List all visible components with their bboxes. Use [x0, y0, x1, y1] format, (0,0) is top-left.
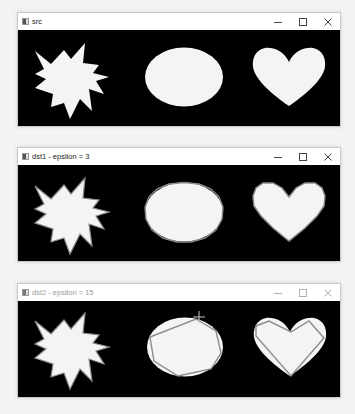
minimize-icon	[274, 289, 282, 297]
close-icon	[324, 18, 332, 26]
maximize-button[interactable]	[290, 13, 315, 30]
image-canvas[interactable]	[18, 30, 340, 126]
window-controls	[265, 284, 340, 301]
window-title: dst1 - epsilon = 3	[32, 152, 89, 161]
titlebar[interactable]: dst1 - epsilon = 3	[18, 148, 340, 165]
titlebar[interactable]: dst2 - epsilon = 15	[18, 284, 340, 301]
app-icon	[22, 153, 29, 160]
window-controls	[265, 13, 340, 30]
close-button[interactable]	[315, 284, 340, 301]
titlebar[interactable]: src	[18, 13, 340, 30]
close-icon	[324, 153, 332, 161]
window-src: src	[17, 12, 341, 127]
ellipse-shape	[145, 48, 223, 107]
app-icon	[22, 289, 29, 296]
minimize-button[interactable]	[265, 148, 290, 165]
image-canvas[interactable]	[18, 165, 340, 261]
window-controls	[265, 148, 340, 165]
app-icon	[22, 18, 29, 25]
close-button[interactable]	[315, 13, 340, 30]
minimize-button[interactable]	[265, 284, 290, 301]
maximize-icon	[299, 153, 307, 161]
maximize-icon	[299, 289, 307, 297]
maximize-button[interactable]	[290, 284, 315, 301]
image-canvas[interactable]	[18, 301, 340, 397]
close-icon	[324, 289, 332, 297]
window-title: src	[32, 17, 42, 26]
minimize-icon	[274, 153, 282, 161]
window-dst1: dst1 - epsilon = 3	[17, 147, 341, 262]
maximize-button[interactable]	[290, 148, 315, 165]
window-title: dst2 - epsilon = 15	[32, 288, 94, 297]
maximize-icon	[299, 18, 307, 26]
close-button[interactable]	[315, 148, 340, 165]
window-dst2: dst2 - epsilon = 15	[17, 283, 341, 398]
minimize-icon	[274, 18, 282, 26]
minimize-button[interactable]	[265, 13, 290, 30]
